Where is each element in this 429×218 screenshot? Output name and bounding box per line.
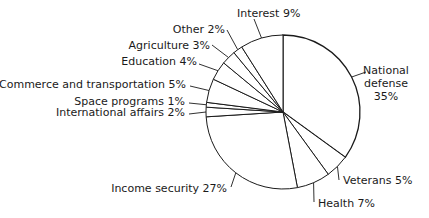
slice-label: Interest 9% <box>237 7 300 20</box>
leader-line <box>231 173 236 187</box>
slice-label: Agriculture 3% <box>129 39 210 52</box>
pie-slice-income-security <box>206 112 297 189</box>
leader-line <box>254 19 262 38</box>
leader-line <box>189 112 206 114</box>
leader-line <box>190 86 209 91</box>
slice-label: Income security 27% <box>111 182 227 195</box>
slice-label: Education 4% <box>121 55 197 68</box>
leader-line <box>212 45 229 58</box>
leader-line <box>337 166 339 180</box>
slice-label: Other 2% <box>173 23 225 36</box>
leader-line <box>189 103 206 105</box>
pie-slices <box>206 35 360 189</box>
slice-label: Health 7% <box>318 197 375 210</box>
leader-line <box>199 64 218 71</box>
slice-label: Nationaldefense35% <box>363 64 409 103</box>
leader-line <box>227 30 238 50</box>
slice-label: Commerce and transportation 5% <box>0 78 186 91</box>
slice-label: Veterans 5% <box>343 174 412 187</box>
slice-label: Space programs 1% <box>74 95 185 108</box>
pie-chart: Nationaldefense35%Veterans 5%Health 7%In… <box>0 0 429 218</box>
